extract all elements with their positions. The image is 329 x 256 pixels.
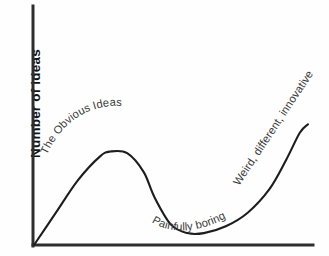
peak-annotation-label: The Obvious Ideas bbox=[38, 96, 123, 156]
curve-annotations: The Obvious Ideas Painfully boring Weird… bbox=[38, 68, 315, 232]
chart-canvas: The Obvious Ideas Painfully boring Weird… bbox=[0, 0, 329, 256]
idea-curve-chart: Number of Ideas The Obvious Ideas Painfu… bbox=[0, 0, 329, 256]
